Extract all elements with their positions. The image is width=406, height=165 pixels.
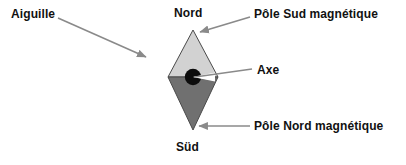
diagram-canvas [0, 0, 406, 165]
label-pole-nord-magnetique: Pôle Nord magnétique [254, 119, 383, 133]
leader-aiguille [58, 18, 146, 57]
label-nord: Nord [174, 6, 202, 20]
leader-pole-sud-magnetique [200, 17, 250, 32]
label-sud: Süd [176, 140, 199, 154]
label-pole-sud-magnetique: Pôle Sud magnétique [254, 7, 378, 21]
label-aiguille: Aiguille [11, 7, 55, 21]
compass-needle-diagram: Aiguille Nord Süd Pôle Sud magnétique Ax… [0, 0, 406, 165]
label-axe: Axe [257, 63, 279, 77]
